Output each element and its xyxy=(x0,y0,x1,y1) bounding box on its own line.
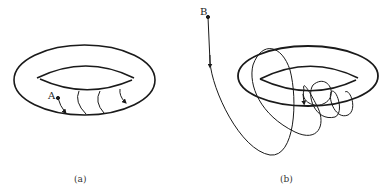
figure-canvas: A (a) B (b) xyxy=(0,0,392,196)
spiral-arrow xyxy=(303,94,304,103)
torus-hole-top-arc xyxy=(37,66,134,78)
flow-line-arc-1 xyxy=(78,91,86,114)
torus-hole-top-arc-b xyxy=(260,66,358,79)
caption-a: (a) xyxy=(74,174,86,184)
torus-outer-outline xyxy=(14,45,155,115)
torus-outer-outline-b xyxy=(238,46,378,106)
point-b-label: B xyxy=(200,6,207,17)
point-a-label: A xyxy=(47,90,56,101)
caption-b: (b) xyxy=(280,174,293,184)
flow-line-from-a xyxy=(58,98,65,112)
torus-hole-bottom-arc xyxy=(40,79,132,90)
panel-a xyxy=(14,45,155,115)
panel-b xyxy=(206,15,378,155)
trajectory-inner-spiral xyxy=(303,81,352,117)
trajectory-from-b xyxy=(208,17,321,155)
flow-line-arc-2 xyxy=(98,91,104,113)
flow-line-arrow-right xyxy=(120,89,125,102)
